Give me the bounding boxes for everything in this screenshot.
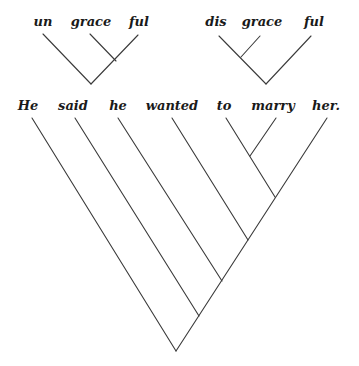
word-to: to [217, 99, 232, 113]
morpheme-ful: ful [129, 15, 149, 29]
morpheme-grace: grace [71, 15, 112, 29]
morpheme-ful: ful [304, 15, 324, 29]
word-her: her. [312, 99, 340, 113]
disgraceful-tree-branches [219, 36, 311, 84]
word-he-capital: He [18, 99, 39, 113]
ungraceful-tree-branches [43, 34, 138, 84]
morpheme-un: un [34, 15, 53, 29]
sentence-tree-branches [32, 118, 327, 351]
word-marry: marry [251, 99, 294, 113]
morpheme-grace: grace [242, 15, 283, 29]
word-he: he [109, 99, 127, 113]
tree-lines [0, 0, 359, 366]
word-wanted: wanted [146, 99, 198, 113]
word-said: said [58, 99, 88, 113]
morpheme-dis: dis [205, 15, 226, 29]
